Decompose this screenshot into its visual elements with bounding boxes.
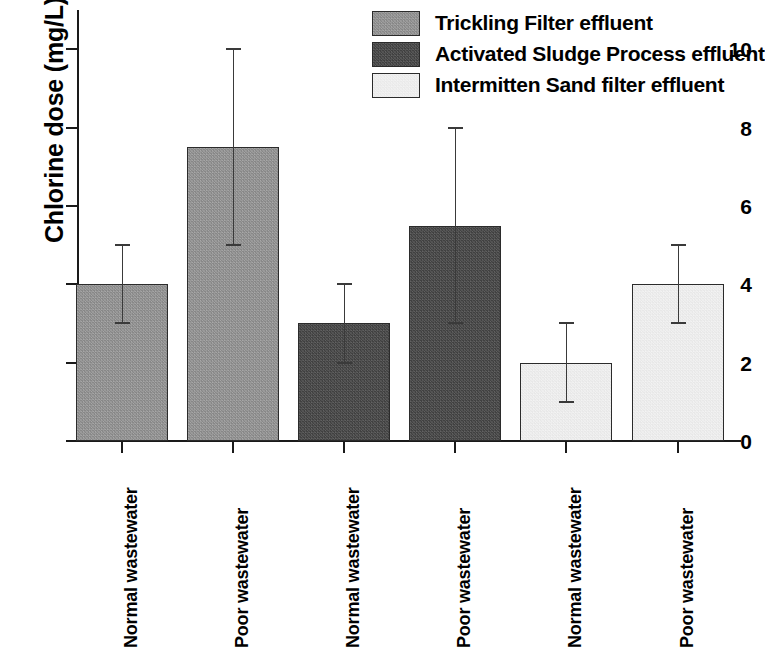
legend: Trickling Filter effluentActivated Sludg… [372, 8, 765, 101]
error-bar-cap-upper [559, 322, 574, 324]
x-tick [343, 442, 345, 453]
x-tick [677, 442, 679, 453]
legend-item: Activated Sludge Process effluent [372, 39, 765, 69]
legend-item: Trickling Filter effluent [372, 8, 765, 38]
y-tick [66, 48, 78, 50]
error-bar-cap-upper [671, 244, 686, 246]
error-bar-cap-upper [115, 244, 130, 246]
x-tick [565, 442, 567, 453]
error-bar-cap-lower [226, 244, 241, 246]
x-tick [121, 442, 123, 453]
legend-label: Activated Sludge Process effluent [435, 42, 765, 66]
error-bar-cap-upper [448, 127, 463, 129]
x-tick-label: Poor wastewater [676, 458, 698, 648]
error-bar-stem [233, 49, 234, 245]
error-bar-stem [344, 284, 345, 362]
legend-swatch [372, 73, 420, 98]
x-tick-label: Normal wastewater [564, 458, 586, 648]
error-bar-stem [566, 323, 567, 401]
error-bar-cap-lower [337, 362, 352, 364]
legend-item: Intermitten Sand filter effluent [372, 70, 765, 100]
error-bar-stem [122, 245, 123, 323]
x-tick [454, 442, 456, 453]
y-tick-label: 6 [706, 195, 752, 219]
error-bar-cap-lower [671, 322, 686, 324]
x-tick-label: Poor wastewater [453, 458, 475, 648]
error-bar-stem [678, 245, 679, 323]
error-bar-cap-upper [226, 48, 241, 50]
error-bar-cap-lower [115, 322, 130, 324]
y-tick [66, 127, 78, 129]
legend-swatch [372, 42, 420, 67]
x-tick [232, 442, 234, 453]
legend-swatch [372, 11, 420, 36]
legend-label: Intermitten Sand filter effluent [435, 73, 724, 97]
error-bar-cap-upper [337, 283, 352, 285]
y-tick [66, 205, 78, 207]
y-tick-label: 8 [706, 117, 752, 141]
legend-label: Trickling Filter effluent [435, 11, 653, 35]
error-bar-cap-lower [448, 322, 463, 324]
x-tick-label: Normal wastewater [342, 458, 364, 648]
error-bar-stem [455, 128, 456, 324]
x-tick-label: Normal wastewater [120, 458, 142, 648]
error-bar-cap-lower [559, 401, 574, 403]
x-tick-label: Poor wastewater [231, 458, 253, 648]
